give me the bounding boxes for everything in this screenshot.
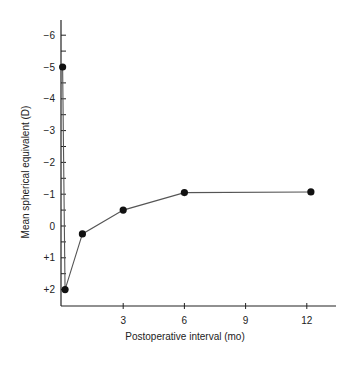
- y-axis-title: Mean spherical equivalent (D): [20, 106, 31, 239]
- axes: [61, 20, 336, 306]
- data-series: [59, 63, 314, 293]
- y-tick-label: +1: [44, 252, 56, 263]
- y-tick-label: −3: [44, 125, 56, 136]
- y-tick-label: −1: [44, 189, 56, 200]
- y-tick-label: −6: [44, 30, 56, 41]
- data-point-marker: [120, 207, 127, 214]
- data-point-marker: [61, 286, 68, 293]
- y-tick-label: −4: [44, 93, 56, 104]
- y-tick-label: 0: [49, 221, 55, 232]
- x-tick-label: 3: [120, 315, 126, 326]
- line-chart: −6−5−4−3−2−10+1+2 36912 Postoperative in…: [0, 0, 339, 365]
- data-point-marker: [79, 230, 86, 237]
- data-point-marker: [307, 188, 314, 195]
- x-tick-label: 6: [182, 315, 188, 326]
- x-tick-label: 9: [243, 315, 249, 326]
- series-line: [63, 67, 311, 290]
- x-axis-title: Postoperative interval (mo): [125, 331, 245, 342]
- y-tick-label: −2: [44, 157, 56, 168]
- data-point-marker: [59, 63, 66, 70]
- x-tick-label: 12: [301, 315, 313, 326]
- data-point-marker: [181, 189, 188, 196]
- y-tick-label: −5: [44, 62, 56, 73]
- y-tick-label: +2: [44, 284, 56, 295]
